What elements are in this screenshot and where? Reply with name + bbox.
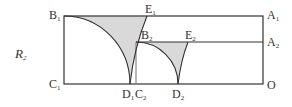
label-B2: B2 [141, 29, 153, 43]
label-E2: E2 [185, 29, 196, 43]
label-A2: A2 [267, 36, 279, 50]
shaded-region-1 [64, 16, 147, 84]
label-R2: R2 [15, 47, 26, 62]
label-C1: C1 [49, 78, 61, 92]
label-O: O [267, 79, 276, 91]
label-A1: A1 [267, 9, 279, 23]
label-B1: B1 [49, 9, 61, 23]
shaded-region-2 [136, 42, 188, 84]
label-D1: D1 [122, 88, 134, 102]
label-D2: D2 [172, 88, 184, 102]
label-E1: E1 [145, 3, 156, 17]
label-C2: C2 [135, 88, 147, 102]
